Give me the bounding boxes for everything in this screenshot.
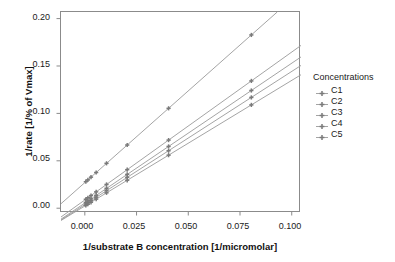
legend-marker-icon (316, 118, 328, 129)
legend-marker-icon (316, 96, 328, 107)
legend-item-c1[interactable]: C1 (316, 85, 393, 96)
legend-item-c5[interactable]: C5 (316, 129, 393, 140)
legend-item-c2[interactable]: C2 (316, 96, 393, 107)
legend-item-c3[interactable]: C3 (316, 107, 393, 118)
legend-marker-icon (316, 129, 328, 140)
legend: Concentrations C1C2C3C4C5 (313, 72, 393, 140)
legend-item-label: C5 (331, 129, 343, 140)
legend-item-label: C2 (331, 96, 343, 107)
legend-marker-icon (316, 85, 328, 96)
chart-canvas: 0.20 0.15 0.10 0.05 0.00 0.000 0.025 0.0… (0, 0, 395, 262)
legend-item-label: C3 (331, 107, 343, 118)
legend-item-label: C1 (331, 85, 343, 96)
legend-marker-icon (316, 107, 328, 118)
legend-title: Concentrations (313, 72, 393, 82)
legend-item-c4[interactable]: C4 (316, 118, 393, 129)
legend-item-label: C4 (331, 118, 343, 129)
